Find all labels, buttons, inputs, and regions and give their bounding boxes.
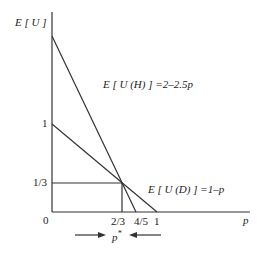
tick-x-4-5: 4/5: [134, 216, 148, 227]
line-d: [52, 124, 157, 212]
p-star-label: p*: [112, 230, 122, 243]
line-h-label: E [ U (H) ] =2–2.5p: [103, 79, 193, 90]
tick-y-1-3: 1/3: [33, 177, 47, 188]
line-h: [52, 36, 136, 212]
arrow-left-head-icon: [129, 232, 137, 238]
arrow-right-head-icon: [98, 232, 106, 238]
chart: E [ U ] E [ U (H) ] =2–2.5p 1 1/3 E [ U …: [0, 0, 267, 253]
tick-x-1: 1: [154, 216, 160, 227]
x-axis-label: p: [243, 215, 249, 226]
tick-y-1: 1: [42, 118, 48, 129]
line-d-label: E [ U (D) ] =1–p: [148, 184, 224, 195]
tick-origin: 0: [43, 215, 49, 226]
tick-x-2-3: 2/3: [111, 216, 125, 227]
y-axis-label: E [ U ]: [15, 17, 46, 28]
p-star-sup: *: [118, 229, 122, 238]
